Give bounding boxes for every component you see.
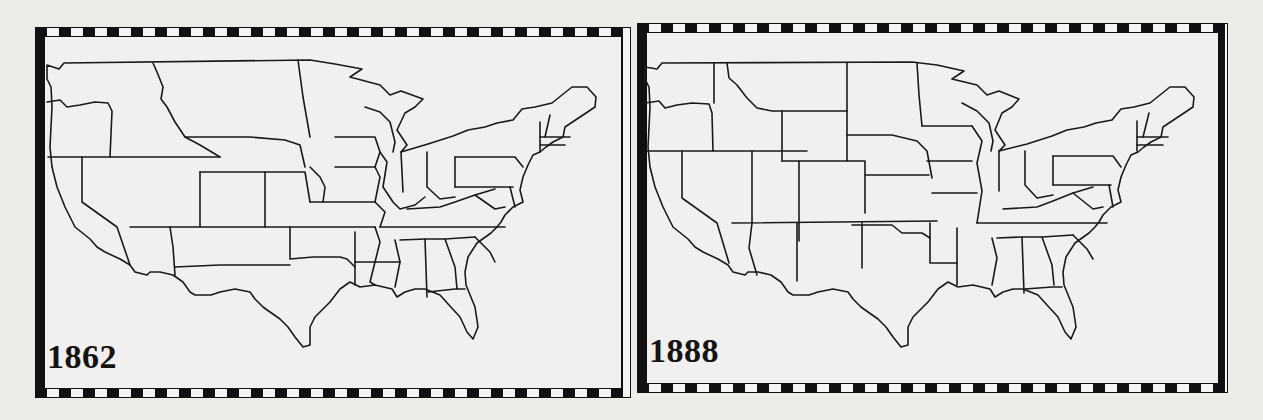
boundary — [732, 221, 937, 223]
boundary — [153, 63, 220, 157]
boundary — [782, 111, 847, 161]
boundary — [727, 63, 782, 111]
boundary — [997, 235, 1073, 238]
boundary — [335, 167, 380, 202]
boundary — [1025, 287, 1062, 289]
boundary — [455, 157, 523, 167]
boundary — [370, 227, 380, 285]
boundary — [310, 202, 385, 227]
boundary — [47, 100, 112, 157]
boundary — [645, 101, 713, 151]
boundary — [185, 137, 305, 167]
boundary — [400, 237, 475, 240]
boundary — [930, 223, 957, 263]
boundary — [82, 157, 130, 265]
year-label-1888: 1888 — [649, 332, 719, 370]
boundary — [310, 167, 325, 202]
boundary — [200, 172, 310, 202]
boundary — [1053, 156, 1121, 167]
year-label-1862: 1862 — [47, 338, 117, 376]
boundary — [170, 227, 175, 275]
boundary — [365, 107, 395, 152]
boundary — [510, 187, 515, 207]
boundary — [427, 152, 455, 199]
boundary — [475, 237, 495, 262]
boundary — [401, 152, 403, 192]
boundary — [428, 289, 465, 292]
boundary — [749, 223, 757, 275]
boundary — [298, 60, 310, 137]
boundary — [1109, 185, 1113, 207]
map-panel-1888: 1888 — [637, 23, 1228, 393]
boundary — [1143, 113, 1149, 137]
map-panel-1862: 1862 — [35, 27, 631, 398]
boundary — [1073, 235, 1093, 259]
boundary — [1042, 237, 1054, 285]
boundary — [782, 161, 865, 213]
boundary — [175, 265, 290, 267]
us-map-1862 — [35, 27, 631, 398]
us-map-1888 — [637, 23, 1228, 393]
boundary — [972, 126, 982, 223]
boundary — [847, 135, 932, 178]
boundary — [962, 103, 993, 151]
boundary — [917, 63, 922, 126]
boundary — [290, 227, 355, 267]
boundary — [1025, 151, 1053, 198]
boundary — [475, 195, 505, 209]
boundary — [545, 115, 550, 137]
boundary — [395, 240, 400, 287]
boundary — [1073, 193, 1103, 209]
boundary — [682, 151, 729, 263]
boundary — [992, 238, 997, 285]
boundary — [1022, 237, 1024, 293]
boundary — [445, 239, 457, 289]
boundary — [335, 137, 380, 167]
boundary — [852, 225, 930, 238]
